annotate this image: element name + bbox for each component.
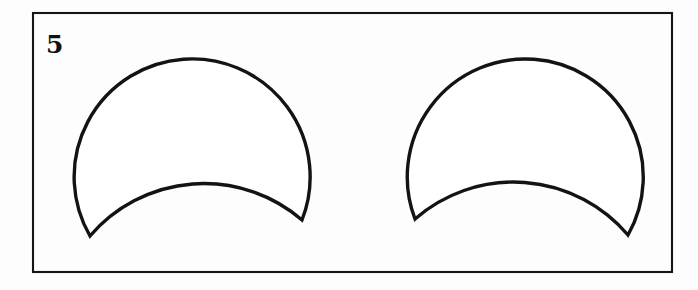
left-crescent-shape [74, 59, 310, 236]
figure-number-label: 5 [46, 30, 63, 59]
figure-page: 5 [0, 0, 698, 290]
figure-canvas: 5 [0, 0, 698, 290]
right-crescent-shape [407, 59, 643, 235]
